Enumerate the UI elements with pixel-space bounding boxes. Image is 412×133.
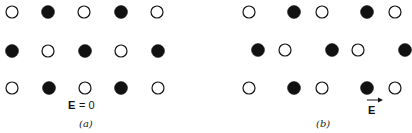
open-atom-icon (389, 82, 401, 94)
open-atom-icon (243, 82, 255, 94)
open-atom-icon (42, 45, 54, 57)
open-atom-icon (389, 6, 401, 18)
filled-atom-icon (79, 45, 92, 58)
open-atom-icon (279, 44, 291, 56)
filled-atom-icon (42, 6, 55, 19)
filled-atom-icon (288, 6, 301, 19)
open-atom-icon (316, 6, 328, 18)
lattice-panel-a (6, 6, 165, 95)
open-atom-icon (352, 44, 364, 56)
open-atom-icon (316, 82, 328, 94)
filled-atom-icon (361, 82, 374, 95)
caption-b: (b) (316, 118, 330, 129)
open-atom-icon (151, 6, 163, 18)
filled-atom-icon (252, 44, 265, 57)
open-atom-icon (6, 6, 18, 18)
filled-atom-icon (399, 44, 412, 57)
filled-atom-icon (6, 45, 19, 58)
field-symbol-b: E (368, 104, 375, 116)
open-atom-icon (152, 82, 164, 94)
open-atom-icon (6, 82, 18, 94)
field-arrow-icon (367, 98, 383, 103)
filled-atom-icon (152, 45, 165, 58)
open-atom-icon (115, 45, 127, 57)
caption-a: (a) (79, 118, 93, 129)
filled-atom-icon (326, 44, 339, 57)
open-atom-icon (79, 82, 91, 94)
open-atom-icon (243, 6, 255, 18)
filled-atom-icon (288, 82, 301, 95)
filled-atom-icon (115, 6, 128, 19)
field-value-a: = 0 (79, 99, 95, 111)
open-atom-icon (78, 6, 90, 18)
polarization-diagram: E = 0 (a) E (b) (0, 0, 412, 133)
field-symbol-a: E (68, 99, 75, 111)
filled-atom-icon (361, 6, 374, 19)
lattice-panel-b (243, 6, 412, 95)
filled-atom-icon (115, 82, 128, 95)
filled-atom-icon (43, 82, 56, 95)
